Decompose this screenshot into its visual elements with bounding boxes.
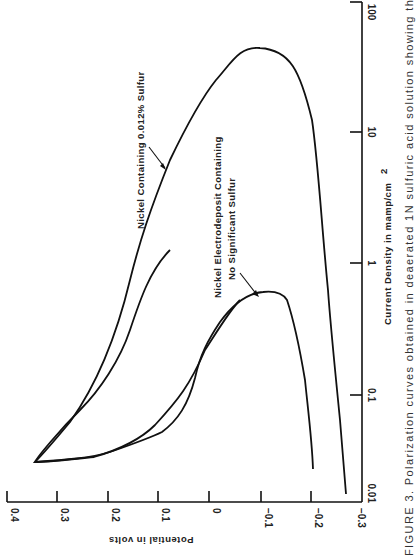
current-tick-labels: 0.01 0.1 1 10 100 — [366, 4, 377, 504]
potential-axis-title: Potential in volts — [108, 535, 193, 546]
ytick-label: 0.3 — [59, 508, 70, 522]
curve-no-sulfur-nickel — [35, 292, 313, 469]
potential-tick-labels: 0.4 0.3 0.2 0.1 0 −0.1 −0.2 −0.3 — [9, 508, 367, 528]
ytick-label: 0.2 — [110, 508, 121, 522]
ytick-label: 0 — [211, 508, 222, 514]
ytick-label: 0.4 — [9, 508, 20, 522]
current-density-axis — [350, 2, 362, 502]
curve-sulfur-nickel — [35, 48, 346, 494]
current-axis-title-superscript: 2 — [378, 168, 389, 174]
annotation-sulfur-label: Nickel Containing 0.012% Sulfur — [135, 71, 146, 229]
ytick-label: −0.2 — [313, 508, 324, 528]
ytick-label: −0.3 — [356, 508, 367, 528]
potential-axis — [7, 491, 362, 502]
current-axis-title: Current Density in mamp/cm 2 — [378, 168, 393, 325]
xtick-label: 0.1 — [366, 388, 377, 402]
ytick-label: 0.1 — [160, 508, 171, 522]
xtick-label: 10 — [366, 126, 377, 138]
annotation-no-sulfur: Nickel Electrodeposit Containing No Sign… — [212, 136, 259, 298]
polarization-chart: 0.4 0.3 0.2 0.1 0 −0.1 −0.2 −0.3 0.01 0.… — [0, 0, 416, 558]
annotation-no-sulfur-label-1: Nickel Electrodeposit Containing — [212, 136, 223, 298]
annotation-sulfur: Nickel Containing 0.012% Sulfur — [135, 71, 166, 229]
ytick-label: −0.1 — [263, 508, 274, 528]
xtick-label: 1 — [366, 260, 377, 266]
figure-caption: FIGURE 3. Polarization curves obtained i… — [403, 0, 415, 556]
xtick-label: 0.01 — [366, 484, 377, 504]
current-axis-title-text: Current Density in mamp/cm — [382, 183, 393, 325]
annotation-no-sulfur-label-2: No Significant Sulfur — [226, 178, 237, 280]
xtick-label: 100 — [366, 4, 377, 21]
